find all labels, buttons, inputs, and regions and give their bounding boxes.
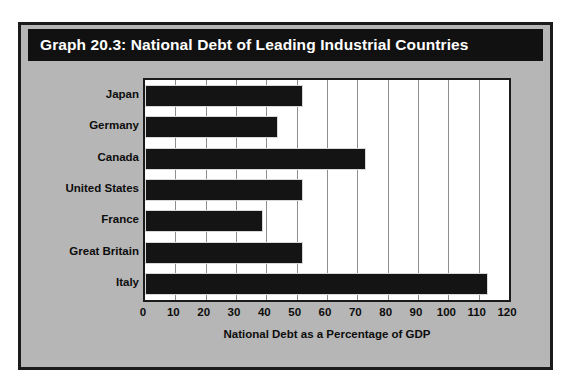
category-label: Italy <box>116 271 139 293</box>
bar <box>145 148 366 170</box>
chart-title-bar: Graph 20.3: National Debt of Leading Ind… <box>28 29 543 61</box>
x-axis-tick-labels: 0102030405060708090100110120 <box>143 306 511 322</box>
x-axis-title: National Debt as a Percentage of GDP <box>143 328 511 340</box>
x-tick-label: 50 <box>288 306 301 318</box>
chart-title: Graph 20.3: National Debt of Leading Ind… <box>40 36 469 54</box>
bar-row <box>145 148 509 170</box>
bar <box>145 242 303 264</box>
x-tick-label: 100 <box>437 306 456 318</box>
x-tick-label: 60 <box>319 306 332 318</box>
plot-area <box>143 78 511 302</box>
bar-row <box>145 179 509 201</box>
category-label: France <box>101 208 139 230</box>
bar-row <box>145 273 509 295</box>
x-tick-label: 80 <box>379 306 392 318</box>
bars-layer <box>145 80 509 300</box>
category-label: United States <box>66 177 140 199</box>
x-tick-label: 20 <box>197 306 210 318</box>
bar <box>145 116 278 138</box>
bar <box>145 210 263 232</box>
category-label: Japan <box>106 83 139 105</box>
x-tick-label: 40 <box>258 306 271 318</box>
bar <box>145 273 488 295</box>
x-tick-label: 120 <box>497 306 516 318</box>
x-tick-label: 0 <box>140 306 146 318</box>
category-axis-labels: JapanGermanyCanadaUnited StatesFranceGre… <box>31 78 139 302</box>
plot-wrapper <box>143 78 511 302</box>
x-tick-label: 30 <box>228 306 241 318</box>
category-label: Great Britain <box>69 240 139 262</box>
bar <box>145 179 303 201</box>
bar-row <box>145 85 509 107</box>
x-tick-label: 70 <box>349 306 362 318</box>
category-label: Germany <box>89 114 139 136</box>
bar-row <box>145 116 509 138</box>
x-tick-label: 10 <box>167 306 180 318</box>
chart-figure: Graph 20.3: National Debt of Leading Ind… <box>18 22 553 370</box>
category-label: Canada <box>97 146 139 168</box>
bar-row <box>145 242 509 264</box>
x-tick-label: 110 <box>467 306 486 318</box>
bar <box>145 85 303 107</box>
bar-row <box>145 210 509 232</box>
x-tick-label: 90 <box>410 306 423 318</box>
